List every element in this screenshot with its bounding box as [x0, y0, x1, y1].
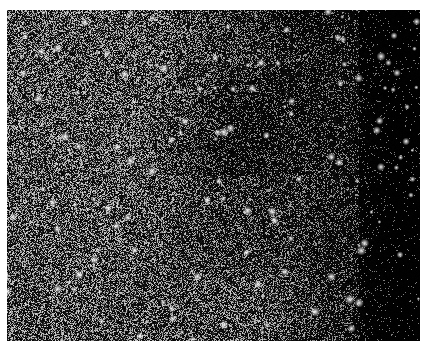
star-field-photo	[7, 10, 420, 341]
image-frame: Grayscale star field photograph with den…	[0, 0, 422, 351]
star-field-canvas	[7, 10, 420, 341]
